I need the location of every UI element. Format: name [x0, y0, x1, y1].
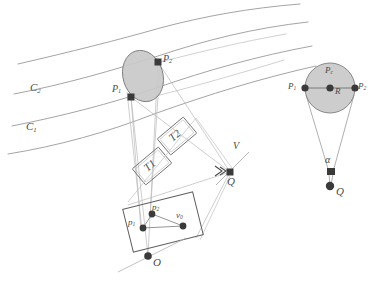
label-point-P1: P1: [112, 84, 121, 95]
label-circle-P2: P2: [358, 82, 366, 92]
label-view-point-V: V: [233, 141, 239, 151]
label-image-point-p2: p2: [152, 203, 159, 213]
marker-Q-right: [326, 182, 334, 190]
label-circle-P1: P1: [288, 82, 296, 92]
label-circle-center-Pc: Pc: [325, 66, 333, 76]
figure-canvas: [0, 0, 380, 291]
label-image-point-v0: v0: [176, 211, 183, 221]
marker-P1: [128, 94, 135, 101]
marker-v0-image: [180, 223, 187, 230]
label-angle-alpha: α: [325, 155, 330, 165]
label-optical-center-O: O: [153, 257, 161, 268]
figure-background: [0, 0, 380, 291]
marker-Pc: [326, 84, 333, 91]
marker-P2: [155, 59, 162, 66]
marker-P1-right: [301, 84, 308, 91]
marker-p1-image: [140, 225, 147, 232]
label-right-point-Q: Q: [336, 186, 344, 197]
label-radius-R: R: [335, 87, 341, 96]
label-curve-c2: C2: [30, 82, 41, 94]
label-curve-c1: C1: [26, 121, 37, 133]
label-point-P2: P2: [163, 54, 172, 65]
marker-O: [144, 252, 152, 260]
label-point-Q: Q: [227, 176, 235, 187]
marker-alpha-vertex: [327, 168, 335, 175]
label-image-point-p1: p1: [128, 218, 135, 228]
